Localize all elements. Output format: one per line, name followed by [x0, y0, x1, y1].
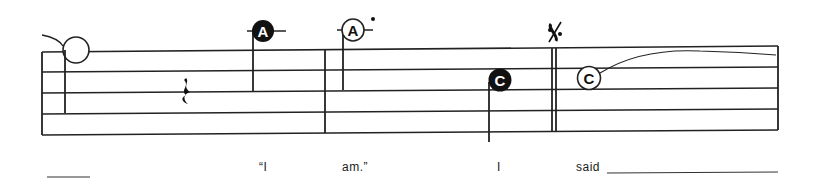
lyric-word-4: said — [576, 160, 600, 174]
note-letter-c: C — [495, 72, 506, 89]
note-letter-c: C — [584, 70, 595, 87]
lyric-word-2: am.” — [342, 160, 368, 174]
open-whole-note — [63, 37, 89, 63]
staff-lines — [42, 46, 778, 135]
lyric-word-3: I — [497, 160, 501, 174]
music-staff: A A C C — [0, 0, 818, 188]
staff-line-2 — [42, 67, 778, 72]
lyric-extender-line — [607, 172, 778, 173]
lyric-word-1: “I — [259, 160, 267, 174]
staff-line-3 — [42, 88, 778, 93]
tie-incoming — [42, 35, 63, 46]
quarter-rest-icon — [182, 78, 190, 104]
note-letter-a: A — [258, 23, 269, 40]
staff-line-5 — [42, 130, 778, 135]
augmentation-dot — [371, 17, 375, 21]
staff-line-4 — [42, 109, 778, 114]
tie-outgoing — [600, 51, 776, 73]
segno-icon — [548, 22, 562, 42]
note-letter-a: A — [348, 22, 359, 39]
